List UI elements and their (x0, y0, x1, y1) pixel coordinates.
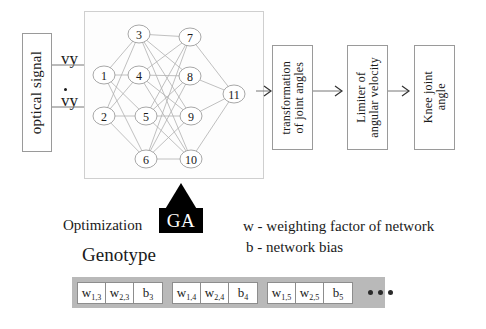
network-edge (190, 37, 234, 94)
network-node-1: 1 (93, 66, 115, 84)
arrow-transformation-to-limiter (313, 82, 347, 100)
gene-subscript: 5 (339, 288, 343, 308)
diagram-root: optical signal vy vy 1234567891011 trans… (0, 0, 486, 329)
network-node-7: 7 (179, 28, 201, 46)
output-block: Knee joint angle (414, 45, 455, 150)
svg-text:4: 4 (136, 69, 142, 83)
gene-subscript: 2,4 (214, 288, 224, 308)
genotype-label: Genotype (82, 244, 156, 266)
transformation-block-label: transformation of joint angles (280, 61, 305, 134)
gene-subscript: 1,3 (91, 288, 101, 308)
svg-text:9: 9 (188, 110, 194, 124)
ga-label: GA (167, 210, 195, 232)
gene-symbol: w (82, 283, 91, 303)
gene-cell-w-1,5: w1,5 (268, 283, 296, 303)
dot-icon (388, 290, 393, 295)
network-node-3: 3 (128, 25, 150, 43)
gene-symbol: w (177, 283, 186, 303)
genetic-algorithm-marker: GA (158, 183, 204, 233)
genotype-strip: w1,3w2,3b3w1,4w2,4b4w1,5w2,5b5 (72, 277, 385, 308)
gene-subscript: 2,3 (119, 288, 129, 308)
dot-icon (368, 290, 373, 295)
svg-text:5: 5 (143, 110, 149, 124)
neural-network-graph: 1234567891011 (85, 12, 263, 178)
network-node-9: 9 (180, 107, 202, 125)
gene-subscript: 4 (244, 288, 248, 308)
network-node-6: 6 (135, 150, 157, 168)
network-node-4: 4 (128, 66, 150, 84)
svg-text:6: 6 (143, 153, 149, 167)
neural-network-block: 1234567891011 (84, 11, 264, 179)
gene-symbol: w (205, 283, 214, 303)
network-edge (139, 34, 191, 159)
gene-cell-w-1,4: w1,4 (173, 283, 201, 303)
gene-group: w1,5w2,5b5 (267, 282, 353, 304)
output-block-label: Knee joint angle (422, 71, 447, 123)
optimization-label: Optimization (63, 218, 142, 233)
svg-text:10: 10 (185, 153, 197, 167)
svg-text:3: 3 (136, 28, 142, 42)
gene-symbol: w (272, 283, 281, 303)
gene-cell-w-2,4: w2,4 (201, 283, 229, 303)
network-node-8: 8 (179, 67, 201, 85)
gene-subscript: 1,4 (186, 288, 196, 308)
svg-text:7: 7 (187, 31, 193, 45)
gene-group: w1,3w2,3b3 (77, 282, 163, 304)
genotype-continuation-dots (362, 290, 393, 295)
ga-badge: GA (159, 208, 203, 233)
gene-symbol: w (300, 283, 309, 303)
limiter-block: Limiter of angular velocity (347, 45, 388, 150)
legend-bias: b - network bias (246, 240, 343, 255)
network-edge (191, 94, 234, 159)
limiter-block-label: Limiter of angular velocity (355, 57, 380, 138)
gene-cell-w-1,3: w1,3 (78, 283, 106, 303)
gene-group: w1,4w2,4b4 (172, 282, 258, 304)
legend-weight: w - weighting factor of network (243, 219, 434, 234)
gene-subscript: 2,5 (309, 288, 319, 308)
dot-icon (378, 290, 383, 295)
network-node-10: 10 (180, 150, 202, 168)
gene-cell-w-2,3: w2,3 (106, 283, 134, 303)
optical-signal-label: optical signal (29, 51, 45, 134)
gene-subscript: 3 (149, 288, 153, 308)
gene-cell-b-5: b5 (324, 283, 352, 303)
up-arrow-icon (164, 183, 198, 211)
network-node-11: 11 (223, 85, 245, 103)
svg-text:2: 2 (101, 110, 107, 124)
gene-cell-b-3: b3 (134, 283, 162, 303)
svg-text:1: 1 (101, 69, 107, 83)
gene-cell-w-2,5: w2,5 (296, 283, 324, 303)
optical-signal-block: optical signal (22, 33, 52, 152)
gene-symbol: w (110, 283, 119, 303)
svg-text:8: 8 (187, 70, 193, 84)
gene-cell-b-4: b4 (229, 283, 257, 303)
network-node-2: 2 (93, 107, 115, 125)
arrow-limiter-to-output (388, 82, 414, 100)
network-node-5: 5 (135, 107, 157, 125)
transformation-block: transformation of joint angles (272, 45, 313, 150)
gene-subscript: 1,5 (281, 288, 291, 308)
svg-text:11: 11 (228, 88, 240, 102)
